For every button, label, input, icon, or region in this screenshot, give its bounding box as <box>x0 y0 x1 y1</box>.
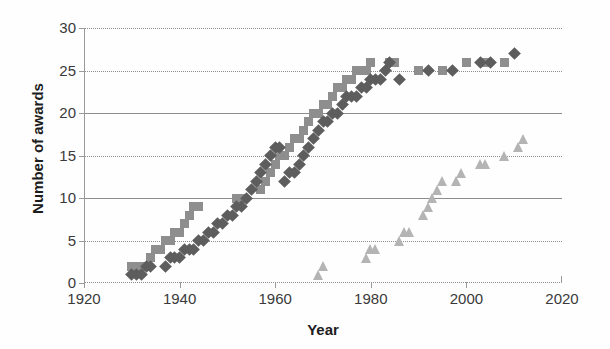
data-point-diamonds <box>250 175 263 188</box>
data-point-diamonds <box>307 132 320 145</box>
data-point-squares <box>189 202 198 211</box>
data-point-squares <box>185 211 194 220</box>
data-point-squares <box>180 219 189 228</box>
data-point-diamonds <box>173 251 186 264</box>
data-point-diamonds <box>288 166 301 179</box>
data-point-squares <box>151 245 160 254</box>
data-point-diamonds <box>336 98 349 111</box>
data-point-diamonds <box>508 47 521 60</box>
y-tick-label-0: 0 <box>36 275 76 290</box>
data-point-diamonds <box>168 251 181 264</box>
gridline-y-15 <box>84 156 562 157</box>
y-tick-label-25: 25 <box>36 63 76 78</box>
data-point-squares <box>290 134 299 143</box>
data-point-diamonds <box>274 141 287 154</box>
y-tick-label-15: 15 <box>36 148 76 163</box>
data-point-triangles <box>370 244 380 254</box>
x-axis-end-cap <box>561 276 562 283</box>
data-point-diamonds <box>145 260 158 273</box>
data-point-squares <box>304 117 313 126</box>
data-point-triangles <box>480 159 490 169</box>
y-tick-mark-25 <box>79 71 85 72</box>
data-point-diamonds <box>278 175 291 188</box>
data-point-triangles <box>432 185 442 195</box>
data-point-diamonds <box>293 158 306 171</box>
data-point-triangles <box>361 253 371 263</box>
data-point-diamonds <box>221 209 234 222</box>
data-point-diamonds <box>364 73 377 86</box>
data-point-squares <box>333 83 342 92</box>
data-point-diamonds <box>188 243 201 256</box>
data-point-diamonds <box>259 158 272 171</box>
data-point-squares <box>170 228 179 237</box>
x-tick-mark-1960 <box>275 282 276 288</box>
y-tick-label-5: 5 <box>36 233 76 248</box>
data-point-squares <box>390 58 399 67</box>
data-point-squares <box>142 262 151 271</box>
data-point-squares <box>194 202 203 211</box>
data-point-triangles <box>318 261 328 271</box>
data-point-squares <box>319 100 328 109</box>
data-point-diamonds <box>231 200 244 213</box>
data-point-diamonds <box>125 268 138 281</box>
data-point-diamonds <box>393 73 406 86</box>
gridline-y-20 <box>84 113 562 114</box>
y-tick-mark-20 <box>79 113 85 114</box>
x-tick-mark-1940 <box>180 282 181 288</box>
y-tick-mark-5 <box>79 241 85 242</box>
data-point-diamonds <box>317 115 330 128</box>
data-point-squares <box>261 177 270 186</box>
data-point-squares <box>271 160 280 169</box>
data-point-squares <box>295 134 304 143</box>
data-point-triangles <box>365 244 375 254</box>
data-point-diamonds <box>211 217 224 230</box>
data-point-squares <box>156 245 165 254</box>
data-point-triangles <box>399 227 409 237</box>
data-point-triangles <box>313 270 323 280</box>
data-point-diamonds <box>350 90 363 103</box>
gridline-y-5 <box>84 241 562 242</box>
data-point-squares <box>299 126 308 135</box>
data-point-triangles <box>451 176 461 186</box>
data-point-squares <box>323 100 332 109</box>
data-point-diamonds <box>207 226 220 239</box>
y-tick-mark-10 <box>79 198 85 199</box>
data-point-squares <box>328 92 337 101</box>
data-point-diamonds <box>140 260 153 273</box>
data-point-triangles <box>418 210 428 220</box>
chart-figure: Number of awards Year 051015202530192019… <box>0 0 610 349</box>
data-point-triangles <box>518 134 528 144</box>
x-tick-label-2000: 2000 <box>436 290 496 307</box>
x-tick-mark-2000 <box>466 282 467 288</box>
data-point-squares <box>137 262 146 271</box>
x-tick-mark-1920 <box>84 282 85 288</box>
plot-area <box>84 28 562 283</box>
data-point-diamonds <box>369 73 382 86</box>
data-point-squares <box>481 58 490 67</box>
data-point-diamonds <box>360 81 373 94</box>
data-point-diamonds <box>321 115 334 128</box>
data-point-diamonds <box>302 141 315 154</box>
y-tick-label-30: 30 <box>36 20 76 35</box>
data-point-squares <box>385 58 394 67</box>
data-point-diamonds <box>484 56 497 69</box>
data-point-diamonds <box>183 243 196 256</box>
x-tick-label-1980: 1980 <box>341 290 401 307</box>
data-point-diamonds <box>312 124 325 137</box>
gridline-y-10 <box>84 198 562 199</box>
data-point-diamonds <box>269 141 282 154</box>
data-point-triangles <box>423 202 433 212</box>
data-point-triangles <box>437 176 447 186</box>
x-tick-label-1920: 1920 <box>54 290 114 307</box>
data-point-triangles <box>513 142 523 152</box>
y-tick-label-10: 10 <box>36 190 76 205</box>
data-point-diamonds <box>355 81 368 94</box>
data-point-squares <box>175 228 184 237</box>
data-point-diamonds <box>283 166 296 179</box>
data-point-diamonds <box>202 226 215 239</box>
data-point-squares <box>266 168 275 177</box>
data-point-diamonds <box>159 260 172 273</box>
gridline-y-25 <box>84 71 562 72</box>
data-point-diamonds <box>178 243 191 256</box>
data-point-diamonds <box>374 73 387 86</box>
